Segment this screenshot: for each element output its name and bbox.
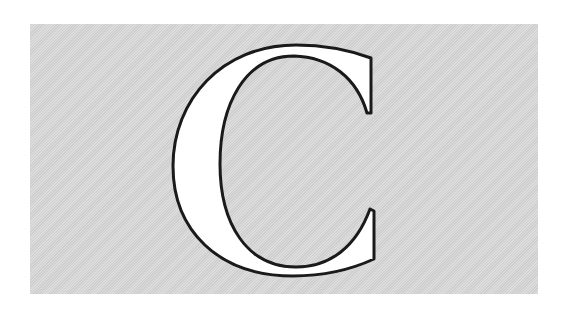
letter-c-glyph: C xyxy=(0,0,564,312)
letter-c-outline xyxy=(173,45,374,276)
